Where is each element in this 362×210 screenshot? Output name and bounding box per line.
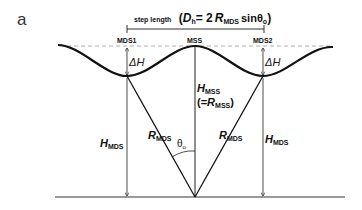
panel-label: a — [17, 10, 27, 29]
h-mss-label: HMSS — [197, 82, 220, 95]
delta-h-label-left: ΔH — [128, 56, 144, 68]
r-mss-equality-label: (=RMSS) — [197, 96, 234, 109]
mss-label: MSS — [187, 37, 203, 44]
h-mds-label-left: HMDS — [100, 137, 124, 150]
mds2-label: MDS2 — [253, 37, 273, 44]
h-mds-label-right: HMDS — [265, 133, 289, 146]
mds1-label: MDS1 — [117, 37, 137, 44]
delta-h-label-right: ΔH — [264, 56, 280, 68]
step-length-label: step length (Dh= 2RMDSsinθo) — [134, 8, 271, 25]
theta-angle-arc — [172, 151, 195, 157]
theta-label: θo — [177, 138, 187, 150]
r-mds-label-left: RMDS — [148, 129, 172, 142]
step-length-bar — [127, 25, 264, 33]
step-length-diagram: a step length (Dh= 2RMDSsinθo) MDS1 MSS … — [0, 0, 362, 210]
r-mds-label-right: RMDS — [219, 129, 243, 142]
